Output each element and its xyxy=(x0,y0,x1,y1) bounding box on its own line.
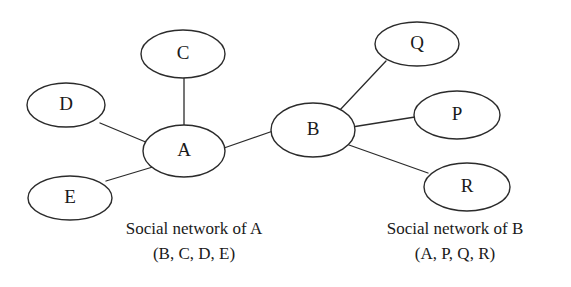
captions-group: Social network of A (B, C, D, E) Social … xyxy=(126,219,523,263)
diagram-canvas: C D A E B Q P xyxy=(0,0,571,287)
node-a-label: A xyxy=(177,139,191,160)
caption-right-title: Social network of B xyxy=(387,219,523,238)
edge-b-q xyxy=(339,61,386,111)
caption-left-members: (B, C, D, E) xyxy=(153,244,235,263)
edge-b-p xyxy=(352,117,415,127)
node-d-label: D xyxy=(59,93,73,114)
edge-e-a xyxy=(106,166,156,181)
node-r-label: R xyxy=(461,175,474,196)
node-d[interactable]: D xyxy=(27,83,105,127)
edge-b-r xyxy=(349,145,428,173)
node-e[interactable]: E xyxy=(28,176,112,220)
node-p-label: P xyxy=(452,103,463,124)
node-q[interactable]: Q xyxy=(375,22,459,66)
node-c-label: C xyxy=(177,42,190,63)
node-b[interactable]: B xyxy=(271,103,355,157)
node-e-label: E xyxy=(64,186,76,207)
edge-d-a xyxy=(100,123,148,143)
node-r[interactable]: R xyxy=(424,163,510,211)
node-b-label: B xyxy=(307,118,320,139)
node-c[interactable]: C xyxy=(141,30,225,78)
social-network-diagram: C D A E B Q P xyxy=(0,0,571,287)
caption-left-title: Social network of A xyxy=(126,219,263,238)
nodes-group: C D A E B Q P xyxy=(27,22,510,220)
caption-right-members: (A, P, Q, R) xyxy=(415,244,495,263)
node-a[interactable]: A xyxy=(143,125,225,177)
edge-a-b xyxy=(224,131,273,148)
node-q-label: Q xyxy=(410,32,424,53)
node-p[interactable]: P xyxy=(414,91,500,139)
